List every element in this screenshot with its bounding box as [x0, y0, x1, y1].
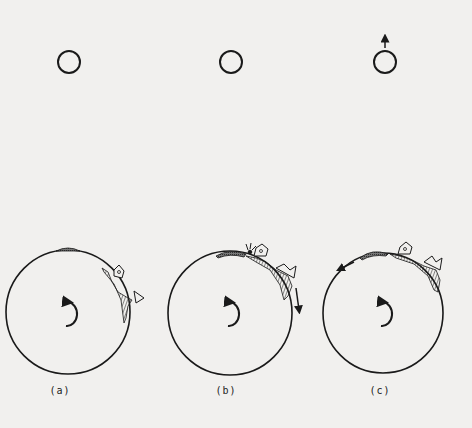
landscape-b: [246, 243, 296, 300]
moon-b: [220, 51, 242, 73]
panel-label-c: (c): [369, 385, 390, 396]
rotation-arrow-b: [228, 302, 239, 326]
panel-c: [323, 38, 443, 373]
moon-a: [58, 51, 80, 73]
panel-label-b: (b): [215, 385, 236, 396]
tidal-bulge-c: [360, 252, 388, 260]
tidal-bulge-a: [56, 248, 80, 251]
rotation-arrow-c: [381, 302, 392, 326]
tidal-diagram: [0, 0, 472, 428]
landscape-c: [390, 242, 442, 292]
panel-b: [168, 51, 299, 375]
flow-arrow-b: [296, 288, 299, 310]
house-icon: [114, 265, 124, 278]
house-icon: [398, 242, 412, 254]
house-icon: [254, 244, 268, 256]
moon-c: [374, 51, 396, 73]
flow-arrow-c: [340, 262, 354, 269]
panel-label-a: (a): [49, 385, 70, 396]
rotation-arrow-a: [66, 302, 77, 326]
panel-a: [6, 51, 144, 374]
earth-a: [6, 250, 130, 374]
landscape-a: [102, 265, 144, 323]
